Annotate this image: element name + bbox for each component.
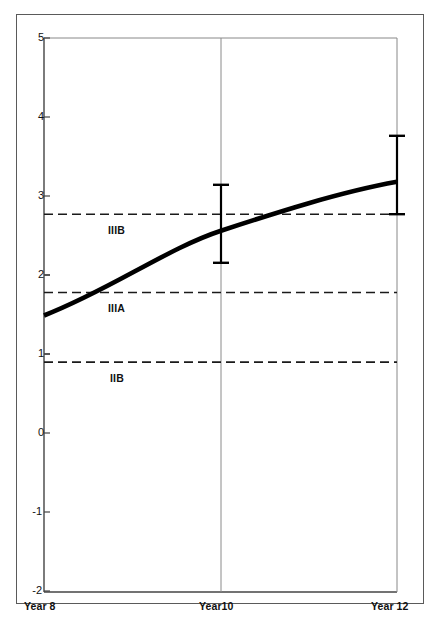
y-tick-label-5: 5 (22, 32, 44, 43)
y-tick-label-4: 4 (22, 111, 44, 122)
error-bar-year10 (213, 185, 229, 263)
error-bar-year12 (389, 136, 405, 214)
y-tick-label-2: 2 (22, 269, 44, 280)
y-tick-label-1: 1 (22, 348, 44, 359)
y-tick-label-minus1: -1 (20, 506, 42, 517)
chart-figure: 5 4 3 2 1 0 -1 -2 Year 8 Year10 Year 12 … (0, 0, 442, 634)
plot-canvas (0, 0, 442, 634)
y-tick-label-minus2: -2 (20, 585, 42, 596)
reference-label-IIB: IIB (110, 372, 124, 384)
y-tick-label-3: 3 (22, 190, 44, 201)
y-tick-label-0: 0 (22, 427, 44, 438)
reference-label-IIIB: IIIB (108, 224, 125, 236)
x-tick-label-year8: Year 8 (24, 601, 56, 612)
reference-label-IIIA: IIIA (108, 302, 125, 314)
x-tick-label-year10: Year10 (199, 601, 233, 612)
x-tick-label-year12: Year 12 (371, 601, 409, 612)
